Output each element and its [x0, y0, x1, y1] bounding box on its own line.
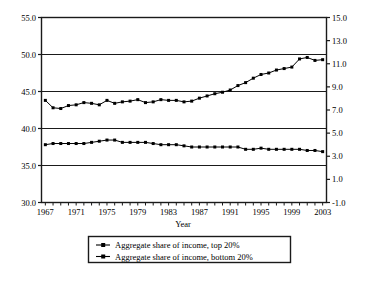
series-marker	[52, 106, 55, 109]
series-marker	[67, 104, 70, 107]
series-marker	[159, 143, 162, 146]
series-marker	[105, 139, 108, 142]
right-tick-label: 11.0	[332, 59, 347, 69]
series-marker	[206, 146, 209, 149]
left-tick-label: 55.0	[21, 13, 36, 23]
series-marker	[75, 142, 78, 145]
series-marker	[236, 84, 239, 87]
series-marker	[67, 142, 70, 145]
right-tick-label: 7.0	[332, 105, 343, 115]
right-tick-label: 5.0	[332, 128, 343, 138]
left-tick-label: 30.0	[21, 198, 36, 208]
series-marker	[275, 148, 278, 151]
series-marker	[267, 148, 270, 151]
series-marker	[221, 146, 224, 149]
series-marker	[213, 146, 216, 149]
series-marker	[313, 59, 316, 62]
series-marker	[306, 149, 309, 152]
series-marker	[190, 146, 193, 149]
series-marker	[152, 100, 155, 103]
series-marker	[90, 141, 93, 144]
series-marker	[275, 69, 278, 72]
series-marker	[136, 98, 139, 101]
x-tick-label: 1975	[98, 207, 115, 217]
legend-label: Aggregate share of income, top 20%	[115, 240, 240, 250]
series-marker	[152, 142, 155, 145]
series-marker	[129, 100, 132, 103]
x-tick-label: 1967	[37, 207, 54, 217]
series-marker	[167, 143, 170, 146]
series-marker	[105, 99, 108, 102]
series-marker	[113, 102, 116, 105]
series-marker	[267, 72, 270, 75]
series-marker	[198, 146, 201, 149]
series-marker	[175, 99, 178, 102]
x-tick-label: 1999	[283, 207, 300, 217]
series-marker	[159, 98, 162, 101]
series-marker	[129, 141, 132, 144]
right-tick-label: -1.0	[332, 198, 345, 208]
series-marker	[306, 56, 309, 59]
legend-item: Aggregate share of income, bottom 20%	[96, 252, 253, 262]
series-marker	[229, 146, 232, 149]
series-marker	[290, 66, 293, 69]
series-marker	[82, 101, 85, 104]
series-marker	[290, 148, 293, 151]
series-marker	[98, 103, 101, 106]
series-marker	[283, 67, 286, 70]
series-marker	[321, 150, 324, 153]
series-marker	[75, 103, 78, 106]
series-marker	[298, 148, 301, 151]
x-axis-title: Year	[175, 219, 191, 229]
series-marker	[252, 148, 255, 151]
x-tick-label: 1991	[222, 207, 239, 217]
series-marker	[121, 100, 124, 103]
series-marker	[283, 148, 286, 151]
series-marker	[167, 99, 170, 102]
series-marker	[229, 89, 232, 92]
series-marker	[44, 99, 47, 102]
right-tick-label: 15.0	[332, 13, 347, 23]
series-marker	[183, 144, 186, 147]
series-marker	[236, 146, 239, 149]
legend-label: Aggregate share of income, bottom 20%	[115, 252, 253, 262]
series-marker	[144, 141, 147, 144]
series-marker	[59, 142, 62, 145]
chart-legend: Aggregate share of income, top 20%Aggreg…	[89, 237, 291, 263]
x-tick-label: 2003	[314, 207, 331, 217]
series-marker	[260, 147, 263, 150]
series-marker	[244, 81, 247, 84]
series-marker	[190, 100, 193, 103]
right-tick-label: 13.0	[332, 36, 347, 46]
series-marker	[298, 57, 301, 60]
series-marker	[90, 102, 93, 105]
x-tick-label: 1995	[253, 207, 270, 217]
x-tick-label: 1987	[191, 207, 208, 217]
series-marker	[198, 97, 201, 100]
series-marker	[44, 143, 47, 146]
series-marker	[144, 101, 147, 104]
right-tick-label: 9.0	[332, 82, 343, 92]
series-marker	[98, 140, 101, 143]
left-tick-label: 35.0	[21, 161, 36, 171]
series-marker	[121, 141, 124, 144]
series-marker	[313, 149, 316, 152]
left-tick-label: 40.0	[21, 124, 36, 134]
x-tick-label: 1979	[129, 207, 146, 217]
series-marker	[113, 139, 116, 142]
series-marker	[206, 94, 209, 97]
x-tick-label: 1971	[68, 207, 85, 217]
right-tick-label: 1.0	[332, 174, 343, 184]
series-marker	[260, 73, 263, 76]
left-tick-label: 50.0	[21, 50, 36, 60]
series-marker	[252, 77, 255, 80]
right-tick-label: 3.0	[332, 151, 343, 161]
chart-figure: 55.050.045.040.035.030.0 15.013.011.09.0…	[0, 0, 373, 281]
legend-marker	[101, 243, 105, 247]
x-tick-label: 1983	[160, 207, 177, 217]
series-marker	[82, 142, 85, 145]
legend-entries: Aggregate share of income, top 20%Aggreg…	[96, 240, 253, 262]
legend-item: Aggregate share of income, top 20%	[96, 240, 240, 250]
series-marker	[52, 142, 55, 145]
series-marker	[59, 107, 62, 110]
